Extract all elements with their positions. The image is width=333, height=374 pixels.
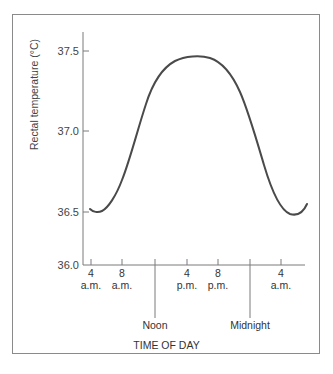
x-tick-sub-4pm: p.m.: [177, 279, 197, 291]
y-tick-36-5: 36.5: [58, 206, 79, 218]
x-tick-noon: Noon: [142, 319, 167, 331]
x-tick-num-4pm: 4: [184, 267, 190, 279]
y-tick-labels: 37.5 37.0 36.5 36.0: [58, 45, 79, 271]
y-tick-36-0: 36.0: [58, 259, 79, 271]
x-tick-labels: 4 a.m. 8 a.m. Noon 4 p.m. 8 p.m. Midnigh…: [81, 267, 291, 331]
x-tick-midnight: Midnight: [230, 319, 270, 331]
x-tick-sub-8pm: p.m.: [208, 279, 228, 291]
x-tick-sub-4am: a.m.: [81, 279, 101, 291]
temperature-curve: [90, 56, 307, 214]
x-tick-num-4am-2: 4: [278, 267, 284, 279]
x-tick-sub-4am-2: a.m.: [271, 279, 291, 291]
x-tick-num-8am: 8: [119, 267, 125, 279]
chart-svg: 37.5 37.0 36.5 36.0 4 a.m. 8 a.m. Noon 4…: [0, 0, 333, 374]
y-tick-37-0: 37.0: [58, 125, 79, 137]
x-tick-sub-8am: a.m.: [112, 279, 132, 291]
x-tick-num-4am: 4: [88, 267, 94, 279]
y-axis-title: Rectal temperature (°C): [28, 39, 40, 150]
y-ticks: [83, 51, 89, 212]
x-tick-num-8pm: 8: [215, 267, 221, 279]
y-tick-37-5: 37.5: [58, 45, 79, 57]
x-axis-title: TIME OF DAY: [0, 339, 333, 351]
